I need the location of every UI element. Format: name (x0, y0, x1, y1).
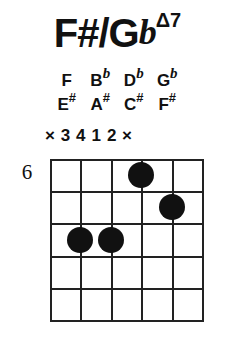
note-letter: F (62, 71, 72, 90)
note-flat-0: F (50, 64, 84, 91)
note-letter: A (90, 95, 102, 114)
chord-slash-separator: / (98, 11, 108, 55)
fret-line-5 (50, 320, 204, 322)
note-sharp-3: F# (151, 89, 185, 115)
chord-diagram-fretboard (50, 159, 204, 322)
finger-dot-string5-fret2 (159, 194, 185, 220)
fret-line-nut (50, 159, 204, 161)
note-accidental: b (103, 65, 111, 81)
chord-root-primary: F# (54, 11, 99, 55)
note-accidental: # (136, 90, 143, 105)
note-letter: B (90, 71, 102, 90)
note-letter: D (124, 71, 136, 90)
finger-dot-string2-fret3 (67, 227, 93, 253)
fingering-string-6: × (112, 126, 143, 146)
fret-line-2 (50, 223, 204, 225)
note-accidental: b (136, 65, 144, 81)
note-sharp-0: E# (50, 89, 84, 115)
string-line-1 (50, 159, 52, 322)
note-accidental: # (69, 90, 76, 105)
note-letter: C (124, 95, 136, 114)
note-accidental: # (103, 90, 110, 105)
fret-position-label: 6 (14, 160, 40, 184)
chord-name-title: F#/GbΔ7 (0, 4, 236, 57)
flat-symbol-icon: b (139, 12, 157, 52)
note-spelling-flat-row: F Bb Db Gb (50, 64, 204, 91)
chord-root-secondary: G (109, 11, 139, 55)
note-accidental: # (169, 90, 176, 105)
string-line-6 (202, 159, 204, 322)
note-flat-3: Gb (151, 64, 185, 91)
note-letter: G (157, 71, 170, 90)
chord-quality-major7: Δ7 (156, 9, 182, 31)
note-letter: E (57, 95, 68, 114)
note-letter: F (158, 95, 168, 114)
fingering-row: × 3 4 1 2 × (50, 126, 204, 146)
fret-line-4 (50, 288, 204, 290)
note-spelling-sharp-row: E# A# C# F# (50, 89, 204, 115)
fret-line-1 (50, 191, 204, 193)
note-flat-1: Bb (84, 64, 118, 91)
note-flat-2: Db (117, 64, 151, 91)
string-line-5 (172, 159, 174, 322)
note-accidental: b (170, 65, 178, 81)
fret-line-3 (50, 256, 204, 258)
note-sharp-2: C# (117, 89, 151, 115)
note-sharp-1: A# (84, 89, 118, 115)
finger-dot-string3-fret3 (98, 227, 124, 253)
